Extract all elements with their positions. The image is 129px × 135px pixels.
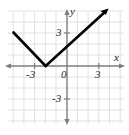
x-axis-label: x [114, 52, 119, 63]
x-tick-label-zero: 0 [61, 69, 67, 80]
y-axis-label: y [70, 6, 75, 17]
y-tick-label-neg3: -3 [52, 93, 61, 104]
x-tick-label-neg3: -3 [26, 69, 35, 80]
graph-figure: -3 0 3 3 -3 x y [0, 0, 129, 135]
axes [5, 9, 125, 125]
x-tick-label-pos3: 3 [95, 69, 101, 80]
y-tick-label-pos3: 3 [56, 27, 62, 38]
